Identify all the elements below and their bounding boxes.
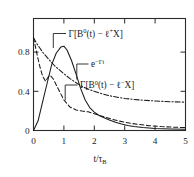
y-tick-label-0: 0 — [25, 126, 30, 136]
plot-frame — [34, 19, 186, 131]
x-axis-ticks-top — [64, 19, 155, 24]
x-tick-label-3: 3 — [122, 136, 127, 146]
y-tick-label-04: 0.4 — [18, 87, 30, 97]
decay-rate-chart: Γ[B0(t) − ℓ+X] e−Γt Γ[B0(t) − ℓ−X] 0 0.4… — [0, 0, 194, 177]
y-axis-ticks-right — [181, 52, 186, 91]
y-tick-label-08: 0.8 — [18, 47, 30, 57]
leader-line-lminus — [65, 85, 77, 101]
x-tick-label-5: 5 — [183, 136, 188, 146]
x-axis-label: t/τB — [93, 154, 106, 166]
figure-container: Γ[B0(t) − ℓ+X] e−Γt Γ[B0(t) − ℓ−X] 0 0.4… — [0, 0, 194, 177]
annotation-lplus: Γ[B0(t) − ℓ+X] — [69, 27, 123, 39]
y-axis-ticks — [34, 52, 39, 130]
x-tick-label-0: 0 — [31, 136, 36, 146]
annotation-exp: e−Γt — [91, 58, 104, 69]
annotation-lminus: Γ[B0(t) − ℓ−X] — [80, 79, 134, 91]
x-tick-label-2: 2 — [92, 136, 97, 146]
curve-exp-decay — [34, 38, 186, 103]
x-tick-label-1: 1 — [62, 136, 67, 146]
leader-line-exp — [77, 64, 89, 80]
x-tick-label-4: 4 — [153, 136, 158, 146]
